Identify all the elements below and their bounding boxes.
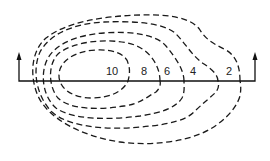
contour-diagram: 10 8 6 4 2 bbox=[0, 0, 270, 161]
contour-label-8: 8 bbox=[141, 65, 147, 77]
transect-line bbox=[17, 52, 258, 81]
contour-label-4: 4 bbox=[190, 65, 196, 77]
right-arrow-up-icon bbox=[253, 52, 258, 60]
contour-label-10: 10 bbox=[106, 65, 118, 77]
contour-line-10 bbox=[59, 50, 130, 98]
left-arrow-up-icon bbox=[17, 52, 22, 60]
contour-line-2 bbox=[33, 15, 241, 144]
contour-label-6: 6 bbox=[164, 65, 170, 77]
contour-label-2: 2 bbox=[226, 65, 232, 77]
